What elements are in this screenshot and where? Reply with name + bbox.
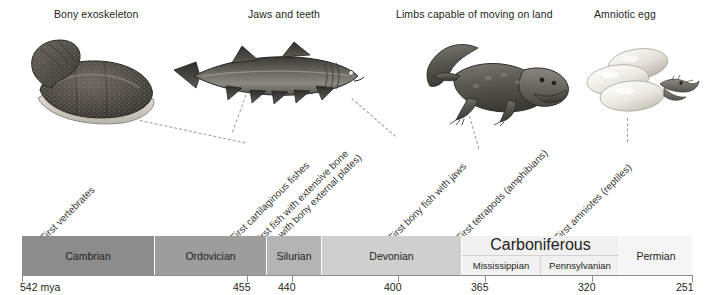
- period-silurian[interactable]: Silurian: [267, 236, 322, 275]
- axis-label-542: 542 mya: [20, 281, 60, 293]
- early-tetrapod-amphibian-illustration: [416, 30, 576, 130]
- epoch-label: Mississippian: [473, 260, 530, 271]
- trait-heading-jaws-and-teeth: Jaws and teeth: [248, 8, 320, 20]
- leader-line-first-amniotes: [627, 118, 628, 142]
- carboniferous-epoch-row: Mississippian Pennsylvanian: [462, 256, 619, 275]
- period-label: Carboniferous: [490, 236, 591, 254]
- geologic-timescale-bar: Cambrian Ordovician Silurian Devonian Ca…: [22, 236, 692, 275]
- event-label-line1: First tetrapods (amphibians): [454, 147, 550, 243]
- trait-heading-amniotic-egg: Amniotic egg: [594, 8, 656, 20]
- period-label: Devonian: [369, 250, 413, 262]
- period-permian[interactable]: Permian: [620, 236, 692, 275]
- axis-label-455: 455: [233, 281, 251, 293]
- axis-label-251: 251: [676, 281, 694, 293]
- period-label: Silurian: [276, 250, 311, 262]
- leader-line-first-bony-fish-with-jaws: [351, 98, 395, 137]
- epoch-mississippian[interactable]: Mississippian: [462, 256, 541, 275]
- epoch-pennsylvanian[interactable]: Pennsylvanian: [541, 256, 619, 275]
- event-label-first-vertebrates: First vertebrates: [38, 184, 97, 243]
- acanthodian-spiny-shark-illustration: [166, 36, 366, 116]
- axis-label-400: 400: [384, 281, 402, 293]
- axis-label-440: 440: [278, 281, 296, 293]
- period-ordovician[interactable]: Ordovician: [155, 236, 267, 275]
- evolution-timeline-figure: Bony exoskeleton Jaws and teeth Limbs ca…: [0, 0, 710, 295]
- event-label-first-amniotes: First amniotes (reptiles): [552, 161, 634, 243]
- ostracoderm-armored-jawless-fish-illustration: [18, 26, 168, 136]
- event-label-line1: First bony fish with jaws: [386, 161, 468, 243]
- carboniferous-title-row: Carboniferous: [462, 236, 619, 256]
- event-label-first-tetrapods: First tetrapods (amphibians): [454, 147, 550, 243]
- event-label-line1: First amniotes (reptiles): [552, 161, 634, 243]
- period-label: Ordovician: [185, 250, 235, 262]
- trait-heading-limbs-on-land: Limbs capable of moving on land: [396, 8, 553, 20]
- period-carboniferous[interactable]: Carboniferous Mississippian Pennsylvania…: [462, 236, 620, 275]
- axis-label-365: 365: [471, 281, 489, 293]
- trait-heading-bony-exoskeleton: Bony exoskeleton: [54, 8, 139, 20]
- amniotic-eggs-with-hatchling-illustration: [580, 38, 700, 124]
- axis-label-320: 320: [578, 281, 596, 293]
- period-label: Permian: [636, 250, 675, 262]
- epoch-label: Pennsylvanian: [549, 260, 611, 271]
- period-label: Cambrian: [65, 250, 111, 262]
- event-label-line1: First vertebrates: [38, 184, 97, 243]
- period-cambrian[interactable]: Cambrian: [22, 236, 155, 275]
- period-devonian[interactable]: Devonian: [322, 236, 462, 275]
